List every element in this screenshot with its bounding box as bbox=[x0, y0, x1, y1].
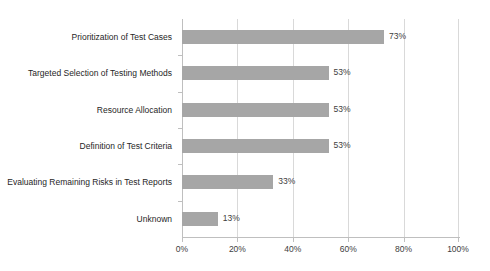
x-axis-tick bbox=[458, 238, 459, 242]
bar-band: 13% bbox=[182, 201, 459, 237]
y-axis-label-1: Targeted Selection of Testing Methods bbox=[0, 55, 177, 91]
x-axis-tick-label-60: 60% bbox=[340, 244, 357, 254]
y-axis-category-labels: Prioritization of Test Cases Targeted Se… bbox=[0, 19, 177, 237]
x-axis-tick bbox=[237, 238, 238, 242]
bar-value-label: 53% bbox=[334, 138, 351, 152]
bar-unknown[interactable] bbox=[182, 212, 218, 226]
x-axis-tick bbox=[404, 238, 405, 242]
bar-band: 73% bbox=[182, 19, 459, 55]
x-axis-tick-label-0: 0% bbox=[176, 244, 188, 254]
y-axis-label-text: Unknown bbox=[137, 214, 177, 224]
bar-value-label: 33% bbox=[278, 174, 295, 188]
x-axis-tick-label-20: 20% bbox=[229, 244, 246, 254]
y-axis-label-text: Prioritization of Test Cases bbox=[72, 32, 177, 42]
x-axis-tick bbox=[182, 238, 183, 242]
y-axis-label-4: Evaluating Remaining Risks in Test Repor… bbox=[0, 164, 177, 200]
bar-band: 33% bbox=[182, 164, 459, 200]
y-axis-label-text: Definition of Test Criteria bbox=[80, 141, 177, 151]
x-axis-tick-label-40: 40% bbox=[284, 244, 301, 254]
bar-value-label: 53% bbox=[334, 102, 351, 116]
bar-value-label: 53% bbox=[334, 65, 351, 79]
x-axis-tick bbox=[348, 238, 349, 242]
y-axis-label-text: Targeted Selection of Testing Methods bbox=[28, 68, 177, 78]
bar-band: 53% bbox=[182, 55, 459, 91]
plot-area: 73% 53% 53% 53% 33% 13% bbox=[182, 19, 459, 237]
x-axis-tick-labels: 0% 20% 40% 60% 80% 100% bbox=[0, 244, 490, 260]
bar-band: 53% bbox=[182, 128, 459, 164]
y-axis-label-0: Prioritization of Test Cases bbox=[0, 19, 177, 55]
bar-definition-of-test-criteria[interactable] bbox=[182, 139, 329, 153]
bar-value-label: 73% bbox=[389, 29, 406, 43]
bar-band: 53% bbox=[182, 92, 459, 128]
y-axis-label-3: Definition of Test Criteria bbox=[0, 128, 177, 164]
y-axis-label-text: Resource Allocation bbox=[97, 105, 177, 115]
bar-chart: Prioritization of Test Cases Targeted Se… bbox=[0, 0, 490, 271]
bar-value-label: 13% bbox=[223, 211, 240, 225]
y-axis-label-5: Unknown bbox=[0, 201, 177, 237]
bar-resource-allocation[interactable] bbox=[182, 103, 329, 117]
x-axis-tick-label-80: 80% bbox=[395, 244, 412, 254]
bar-targeted-selection-of-testing-methods[interactable] bbox=[182, 66, 329, 80]
x-axis-line bbox=[182, 237, 460, 238]
y-axis-label-2: Resource Allocation bbox=[0, 92, 177, 128]
bar-prioritization-of-test-cases[interactable] bbox=[182, 30, 384, 44]
bar-evaluating-remaining-risks-in-test-reports[interactable] bbox=[182, 175, 273, 189]
x-axis-tick-label-100: 100% bbox=[447, 244, 469, 254]
x-axis-tick bbox=[293, 238, 294, 242]
y-axis-label-text: Evaluating Remaining Risks in Test Repor… bbox=[7, 177, 177, 187]
